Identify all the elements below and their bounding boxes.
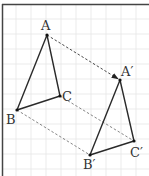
triangle-a-prime-b-prime-c-prime xyxy=(90,80,134,155)
label-b: B xyxy=(6,112,16,127)
label-a: A xyxy=(40,18,51,33)
label-c-prime: C′ xyxy=(130,145,143,160)
vertex-dot xyxy=(132,139,135,142)
diagram-canvas: A B C A′ B′ C′ xyxy=(0,0,149,176)
label-b-prime: B′ xyxy=(83,157,96,172)
translation-vector-arrow xyxy=(47,35,118,79)
triangle-abc xyxy=(17,35,60,110)
dashed-connector-b-b-prime xyxy=(17,110,90,155)
vertex-dot xyxy=(15,108,18,111)
vertex-dot xyxy=(45,33,48,36)
label-a-prime: A′ xyxy=(120,64,133,79)
translation-diagram: A B C A′ B′ C′ xyxy=(0,0,149,176)
vertex-points xyxy=(15,33,135,156)
label-c: C xyxy=(62,89,72,104)
